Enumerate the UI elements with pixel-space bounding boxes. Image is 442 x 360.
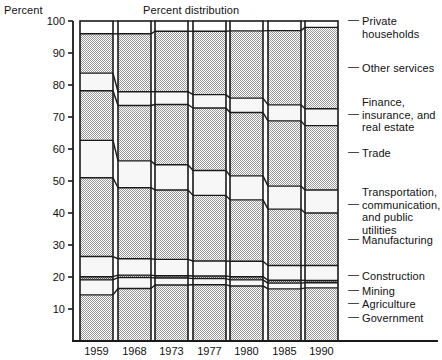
legend-dash-9: — bbox=[348, 310, 359, 323]
x-tick-label-1959: 1959 bbox=[84, 345, 108, 357]
segment-3 bbox=[230, 261, 263, 276]
segment-5 bbox=[230, 176, 263, 200]
segment-4 bbox=[305, 213, 338, 265]
segment-1 bbox=[155, 278, 188, 285]
legend-dash-1: — bbox=[348, 60, 359, 73]
segment-7 bbox=[305, 109, 338, 126]
x-tick-label-1977: 1977 bbox=[197, 345, 221, 357]
legend-label-6: Construction bbox=[362, 270, 425, 283]
segment-9 bbox=[118, 21, 151, 34]
legend-dash-3: — bbox=[348, 145, 359, 158]
legend-label-2: Finance, insurance, and real estate bbox=[362, 96, 436, 134]
y-tick-label: 20 bbox=[53, 271, 65, 283]
segment-1 bbox=[80, 280, 113, 295]
segment-6 bbox=[118, 105, 151, 160]
y-tick-label: 60 bbox=[53, 143, 65, 155]
bar-1990 bbox=[305, 21, 338, 341]
x-tick-label-1968: 1968 bbox=[122, 345, 146, 357]
segment-4 bbox=[118, 188, 151, 259]
segment-8 bbox=[305, 27, 338, 108]
segment-5 bbox=[193, 170, 226, 195]
segment-0 bbox=[268, 289, 301, 341]
bar-1985 bbox=[268, 21, 301, 341]
segment-0 bbox=[193, 285, 226, 341]
segment-8 bbox=[268, 31, 301, 105]
segment-4 bbox=[230, 200, 263, 261]
segment-0 bbox=[305, 288, 338, 341]
segment-6 bbox=[305, 126, 338, 190]
segment-0 bbox=[155, 285, 188, 341]
legend-label-4: Transportation, communication, and publi… bbox=[362, 186, 442, 236]
y-tick-label: 30 bbox=[53, 239, 65, 251]
segment-6 bbox=[268, 121, 301, 186]
x-tick-label-1973: 1973 bbox=[159, 345, 183, 357]
segment-8 bbox=[230, 31, 263, 98]
x-tick-label-1980: 1980 bbox=[234, 345, 258, 357]
segment-3 bbox=[118, 259, 151, 275]
legend-dash-6: — bbox=[348, 268, 359, 281]
segment-1 bbox=[193, 279, 226, 285]
segment-3 bbox=[193, 261, 226, 276]
segment-8 bbox=[155, 31, 188, 91]
legend-label-5: Manufacturing bbox=[362, 234, 433, 247]
legend-label-1: Other services bbox=[362, 62, 434, 75]
legend-dash-2: — bbox=[348, 107, 359, 120]
segment-4 bbox=[155, 190, 188, 259]
segment-9 bbox=[155, 21, 188, 31]
segment-6 bbox=[155, 105, 188, 165]
segment-5 bbox=[268, 186, 301, 209]
segment-3 bbox=[80, 257, 113, 277]
y-tick-label: 50 bbox=[53, 175, 65, 187]
bar-1980 bbox=[230, 21, 263, 341]
legend-dash-4: — bbox=[348, 197, 359, 210]
segment-0 bbox=[118, 289, 151, 341]
segment-1 bbox=[118, 278, 151, 289]
legend-label-8: Agriculture bbox=[362, 298, 416, 311]
legend-dash-0: — bbox=[348, 13, 359, 26]
segment-1 bbox=[268, 283, 301, 289]
segment-0 bbox=[80, 295, 113, 341]
segment-5 bbox=[118, 161, 151, 188]
y-tick-label: 90 bbox=[53, 47, 65, 59]
bar-1959 bbox=[80, 21, 113, 341]
chart-root: Percent Percent distribution 10090807060… bbox=[0, 0, 442, 360]
segment-6 bbox=[230, 113, 263, 176]
y-tick-label: 80 bbox=[53, 79, 65, 91]
segment-6 bbox=[80, 91, 113, 141]
x-tick-label-1990: 1990 bbox=[309, 345, 333, 357]
y-tick-label: 100 bbox=[47, 15, 65, 27]
legend-label-0: Private households bbox=[362, 15, 419, 40]
segment-6 bbox=[193, 108, 226, 170]
segment-5 bbox=[305, 190, 338, 213]
segment-9 bbox=[193, 21, 226, 31]
segment-8 bbox=[80, 34, 113, 73]
segment-0 bbox=[230, 286, 263, 341]
bar-1973 bbox=[155, 21, 188, 341]
segment-7 bbox=[80, 73, 113, 91]
segment-1 bbox=[230, 280, 263, 286]
segment-7 bbox=[230, 98, 263, 112]
segment-4 bbox=[80, 178, 113, 257]
legend-dash-8: — bbox=[348, 296, 359, 309]
segment-7 bbox=[118, 92, 151, 106]
segment-7 bbox=[268, 105, 301, 121]
y-tick-label: 70 bbox=[53, 111, 65, 123]
segment-1 bbox=[305, 283, 338, 288]
segment-4 bbox=[193, 195, 226, 261]
y-tick-label: 40 bbox=[53, 207, 65, 219]
bar-1968 bbox=[118, 21, 151, 341]
segment-3 bbox=[155, 259, 188, 275]
bar-1977 bbox=[193, 21, 226, 341]
segment-7 bbox=[193, 95, 226, 108]
segment-7 bbox=[155, 92, 188, 105]
segment-5 bbox=[80, 140, 113, 177]
segment-8 bbox=[193, 31, 226, 94]
segment-9 bbox=[80, 21, 113, 34]
legend-label-3: Trade bbox=[362, 147, 391, 160]
legend-label-7: Mining bbox=[362, 285, 395, 298]
legend-dash-5: — bbox=[348, 232, 359, 245]
y-tick-label: 10 bbox=[53, 303, 65, 315]
segment-9 bbox=[305, 21, 338, 27]
segment-4 bbox=[268, 209, 301, 265]
segment-3 bbox=[305, 265, 338, 280]
